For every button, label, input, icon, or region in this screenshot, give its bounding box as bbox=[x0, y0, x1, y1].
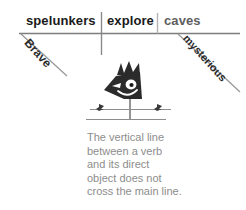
diagram-object-modifier-word: mysterious bbox=[181, 32, 229, 84]
crow-head-icon bbox=[104, 72, 142, 99]
caption-line: cross the main line. bbox=[87, 185, 237, 199]
caption-line: between a verb bbox=[87, 145, 237, 159]
diagram-verb-word: explore bbox=[107, 14, 154, 28]
diagram-subject-word: spelunkers bbox=[26, 14, 96, 28]
diagram-object-word: caves bbox=[164, 14, 201, 28]
diagram-subject-modifier-word: Brave bbox=[22, 36, 55, 70]
caption-line: object does not bbox=[87, 172, 237, 186]
left-bird-icon bbox=[96, 104, 104, 111]
spiky-crest-icon bbox=[117, 61, 140, 75]
crow-smile-icon bbox=[118, 90, 137, 95]
crow-beak-icon bbox=[112, 83, 121, 88]
caption-block: The vertical line between a verb and its… bbox=[87, 131, 237, 199]
caption-line: and its direct bbox=[87, 158, 237, 172]
crow-eye-white-icon bbox=[126, 80, 137, 90]
right-bird-icon bbox=[154, 104, 162, 111]
caption-line: The vertical line bbox=[87, 131, 237, 145]
crow-eye-pupil-icon bbox=[129, 83, 133, 87]
sentence-diagram-figure: spelunkers explore caves Brave mysteriou… bbox=[0, 0, 246, 210]
